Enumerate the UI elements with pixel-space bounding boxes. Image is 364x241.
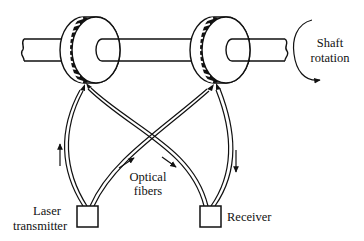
right-encoder-disc — [190, 17, 250, 83]
flow-arrows — [60, 144, 236, 172]
fiber-tip-arrows — [80, 83, 221, 91]
laser-label-2: transmitter — [13, 219, 68, 233]
diagonal-up-arrow-icon — [119, 158, 134, 168]
shaft-rotation-label-1: Shaft — [317, 36, 344, 50]
optical-fibers-label-2: fibers — [134, 184, 163, 198]
receiver-box — [200, 206, 221, 227]
diagram-canvas: Shaft rotation Optical fibers Laser tran… — [0, 0, 364, 241]
laser-transmitter-box — [77, 206, 98, 227]
shaft-rotation-label-2: rotation — [311, 51, 351, 65]
laser-label-1: Laser — [33, 204, 62, 218]
diagonal-down-arrow-icon — [162, 157, 176, 167]
receiver-label: Receiver — [227, 210, 272, 224]
optical-fibers-label-1: Optical — [130, 170, 167, 184]
left-encoder-disc — [60, 17, 120, 83]
